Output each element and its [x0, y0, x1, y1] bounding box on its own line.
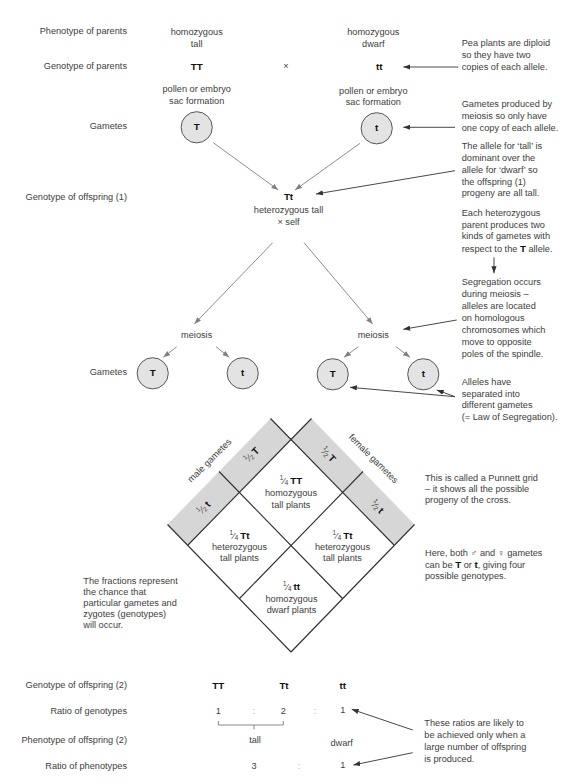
annotation-diploid: Pea plants are diploid so they have two …	[462, 38, 550, 73]
label-phenotype-of-offspring-2: Phenotype of offspring (2)	[21, 736, 127, 745]
phenotype-line: dwarf	[347, 38, 399, 51]
genotype-ratio-value: 1	[216, 707, 221, 716]
annotation-arrow-segregation	[403, 320, 456, 329]
flow-arrow	[295, 143, 360, 190]
female-symbol-icon: ♀	[498, 548, 505, 558]
annotation-arrow-separated-T	[350, 387, 455, 396]
cell-genotype: 1⁄4TT	[265, 475, 317, 487]
ratio-separator: :	[253, 707, 256, 716]
annotation-dominance: The allele for ‘tall’ is dominant over t…	[462, 141, 542, 200]
phenotype-line: homozygous	[171, 26, 223, 38]
phenotype-line: homozygous	[347, 26, 399, 39]
formation-line: pollen or embryo	[162, 84, 230, 96]
parent-tall-genotype: TT	[191, 62, 203, 72]
cell-line: homozygous	[265, 594, 317, 606]
cell-line: heterozygous	[315, 542, 370, 553]
gamete-allele-t: t	[375, 123, 378, 133]
monohybrid-cross-diagram: Phenotype of parents Genotype of parents…	[0, 0, 572, 784]
annotation-large-numbers: These ratios are likely to be achieved o…	[424, 717, 526, 765]
label-gametes-2: Gametes	[90, 369, 127, 378]
phenotype-ratio-value: 3	[251, 762, 256, 771]
formation-line: sac formation	[162, 96, 230, 108]
gamete-allele-T: T	[194, 122, 200, 132]
parent-dwarf-phenotype: homozygous dwarf	[347, 26, 399, 52]
offspring-1-self-cross: × self	[277, 218, 299, 227]
label-genotype-of-offspring-2: Genotype of offspring (2)	[26, 681, 127, 690]
annotation-heterozygous-parent: Each heterozygous parent produces two ki…	[462, 208, 553, 257]
gamete-allele-T: T	[150, 368, 156, 378]
genotype-ratio-value: 1	[340, 706, 345, 715]
tall-grouping-bracket	[218, 721, 283, 729]
flow-arrow	[213, 143, 278, 190]
ratio-separator: :	[314, 707, 317, 716]
formation-line: sac formation	[339, 97, 407, 109]
flow-arrow	[344, 347, 358, 358]
label-ratio-of-genotypes: Ratio of genotypes	[50, 707, 127, 716]
gamete-allele-T: T	[330, 369, 336, 379]
result-phenotype-dwarf: dwarf	[330, 739, 352, 748]
annotation-segregation: Segregation occurs during meiosis – alle…	[462, 277, 546, 360]
annotation-fractions: The fractions represent the chance that …	[83, 576, 177, 630]
meiosis-label-left: meiosis	[181, 331, 212, 340]
cell-line: heterozygous	[212, 542, 267, 553]
flow-arrow	[163, 347, 176, 358]
punnett-cell-bottom: 1⁄4tt homozygous dwarf plants	[265, 581, 317, 617]
ratio-separator: :	[298, 762, 301, 771]
flow-arrow	[194, 243, 272, 324]
cell-line: tall plants	[212, 553, 267, 564]
label-ratio-of-phenotypes: Ratio of phenotypes	[45, 762, 127, 771]
result-genotype-Tt: Tt	[279, 681, 288, 691]
annotation-punnett-grid: This is called a Punnett grid – it shows…	[425, 473, 538, 506]
genotype-ratio-value: 2	[281, 707, 286, 716]
result-genotype-tt: tt	[339, 681, 346, 691]
annotation-arrow-dominance	[316, 171, 455, 194]
cell-line: tall plants	[265, 499, 317, 511]
cell-genotype: 1⁄4tt	[265, 581, 317, 594]
flow-arrow	[216, 347, 229, 358]
punnett-cell-left: 1⁄4Tt heterozygous tall plants	[212, 530, 267, 565]
label-gametes-1: Gametes	[90, 123, 127, 132]
parent-dwarf-genotype: tt	[376, 62, 383, 72]
parent-dwarf-gamete-formation: pollen or embryo sac formation	[339, 86, 407, 109]
formation-line: pollen or embryo	[339, 86, 407, 98]
cell-line: tall plants	[315, 553, 370, 564]
phenotype-ratio-value: 1	[340, 761, 345, 770]
flow-arrow	[396, 347, 410, 358]
gamete-allele-t: t	[422, 369, 425, 379]
annotation-possible-genotypes: Here, both ♂ and ♀ gametes can be T or t…	[425, 548, 542, 582]
parent-tall-gamete-formation: pollen or embryo sac formation	[162, 84, 230, 107]
annotation-arrow-phenotype-ratio	[353, 753, 412, 765]
annotation-arrow-genotype-ratio	[352, 709, 413, 730]
punnett-cell-top: 1⁄4TT homozygous tall plants	[265, 475, 317, 511]
punnett-cell-right: 1⁄4Tt heterozygous tall plants	[315, 530, 370, 565]
cell-genotype: 1⁄4Tt	[315, 530, 370, 542]
phenotype-line: tall	[171, 38, 223, 50]
cell-line: homozygous	[265, 487, 317, 499]
cell-genotype: 1⁄4Tt	[212, 530, 267, 542]
flow-arrow	[304, 243, 373, 324]
annotation-law-of-segregation: Alleles have separated into different ga…	[462, 377, 558, 423]
offspring-1-phenotype: heterozygous tall	[254, 206, 323, 215]
offspring-1-genotype: Tt	[284, 192, 293, 202]
cross-symbol: ×	[283, 63, 288, 72]
cell-line: dwarf plants	[265, 605, 317, 617]
label-genotype-of-parents: Genotype of parents	[44, 62, 127, 71]
result-genotype-TT: TT	[212, 681, 224, 691]
label-genotype-of-offspring-1: Genotype of offspring (1)	[26, 194, 127, 203]
meiosis-label-right: meiosis	[358, 331, 389, 340]
annotation-gametes-meiosis: Gametes produced by meiosis so only have…	[462, 99, 559, 134]
result-phenotype-tall: tall	[249, 736, 261, 745]
parent-tall-phenotype: homozygous tall	[171, 26, 223, 51]
gamete-allele-t: t	[241, 368, 244, 378]
label-phenotype-of-parents: Phenotype of parents	[40, 27, 127, 36]
